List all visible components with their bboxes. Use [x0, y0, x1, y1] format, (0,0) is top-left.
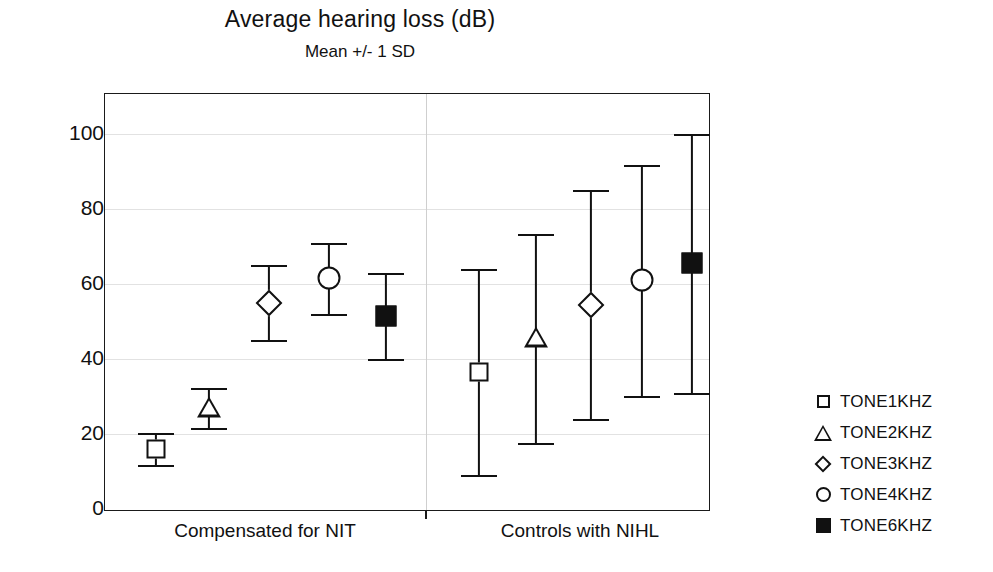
open-diamond-icon [806, 458, 840, 470]
x-axis-divider-tick [425, 510, 427, 519]
legend-item-label: TONE4KHZ [840, 485, 932, 505]
error-bar-cap-lower [624, 396, 660, 398]
legend-item-tone2khz[interactable]: TONE2KHZ [806, 417, 991, 448]
marker-filled-square [682, 253, 703, 274]
error-bar-cap-upper [368, 273, 404, 275]
gridline [105, 434, 709, 435]
error-bar-cap-lower [311, 314, 347, 316]
error-bar-cap-lower [368, 359, 404, 361]
legend-item-tone3khz[interactable]: TONE3KHZ [806, 448, 991, 479]
gridline [105, 209, 709, 210]
marker-open-diamond [578, 291, 605, 318]
legend-item-label: TONE1KHZ [840, 392, 932, 412]
group-divider-line [426, 94, 427, 510]
error-bar-cap-lower [674, 393, 710, 395]
legend: TONE1KHZTONE2KHZTONE3KHZTONE4KHZTONE6KHZ [806, 386, 991, 541]
marker-open-circle [631, 269, 654, 292]
y-axis-tick-label: 100 [44, 121, 104, 145]
error-bar-cap-upper [674, 134, 710, 136]
x-axis-group-label: Compensated for NIT [174, 520, 356, 542]
chart-page: Average hearing loss (dB) Mean +/- 1 SD … [0, 0, 993, 572]
marker-open-triangle [197, 396, 221, 417]
y-axis-tick-labels: 020406080100 [38, 0, 104, 572]
legend-item-label: TONE2KHZ [840, 423, 932, 443]
error-bar-cap-lower [251, 340, 287, 342]
y-axis-tick-label: 60 [44, 271, 104, 295]
error-bar-cap-lower [461, 475, 497, 477]
marker-filled-square [376, 305, 397, 326]
marker-open-square [470, 363, 489, 382]
marker-open-triangle [524, 327, 548, 348]
y-axis-tick-label: 80 [44, 196, 104, 220]
error-bar-cap-upper [191, 388, 227, 390]
filled-square-icon [806, 518, 840, 533]
error-bar-cap-lower [191, 428, 227, 430]
x-axis-group-label: Controls with NIHL [501, 520, 659, 542]
error-bar-cap-upper [461, 269, 497, 271]
filled-square-icon-glyph [816, 518, 831, 533]
open-triangle-icon-glyph [814, 425, 832, 441]
marker-open-diamond [256, 289, 283, 316]
open-circle-icon-glyph [816, 487, 831, 502]
gridline [105, 359, 709, 360]
open-square-icon [806, 395, 840, 408]
error-bar-cap-lower [138, 465, 174, 467]
error-bar-cap-upper [518, 234, 554, 236]
legend-item-label: TONE3KHZ [840, 454, 932, 474]
error-bar-cap-upper [251, 265, 287, 267]
y-axis-tick-label: 40 [44, 346, 104, 370]
legend-item-tone4khz[interactable]: TONE4KHZ [806, 479, 991, 510]
error-bar-cap-upper [311, 243, 347, 245]
error-bar-cap-upper [138, 433, 174, 435]
open-diamond-icon-glyph [815, 455, 832, 472]
plot-area [104, 93, 710, 511]
gridline [105, 284, 709, 285]
legend-item-tone6khz[interactable]: TONE6KHZ [806, 510, 991, 541]
error-bar-cap-lower [573, 419, 609, 421]
error-bar-cap-upper [624, 165, 660, 167]
y-axis-tick-label: 20 [44, 421, 104, 445]
legend-item-tone1khz[interactable]: TONE1KHZ [806, 386, 991, 417]
open-square-icon-glyph [817, 395, 830, 408]
error-bar-cap-upper [573, 190, 609, 192]
error-bar-cap-lower [518, 443, 554, 445]
open-circle-icon [806, 487, 840, 502]
y-axis-tick-label: 0 [44, 496, 104, 520]
legend-item-label: TONE6KHZ [840, 516, 932, 536]
marker-open-square [147, 440, 166, 459]
open-triangle-icon [806, 425, 840, 441]
marker-open-circle [318, 267, 341, 290]
gridline [105, 134, 709, 135]
